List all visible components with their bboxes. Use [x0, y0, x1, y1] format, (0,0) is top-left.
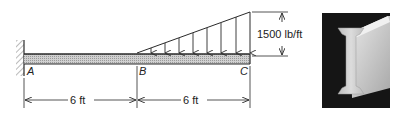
load-intensity-dimension: 1500 lb/ft: [252, 12, 312, 56]
point-label-b: B: [139, 65, 146, 77]
length-dimensions: 6 ft 6 ft: [24, 66, 250, 108]
cantilever-beam-diagram: 1500 lb/ft A B C 6 ft 6 ft: [0, 0, 408, 117]
distributed-load: [137, 12, 250, 53]
beam: [24, 54, 250, 64]
dimension-label-bc: 6 ft: [183, 94, 198, 106]
point-label-c: C: [240, 65, 248, 77]
fixed-support-wall: [16, 40, 24, 76]
load-intensity-label: 1500 lb/ft: [257, 28, 302, 40]
dimension-label-ab: 6 ft: [70, 94, 85, 106]
i-beam-photo: [322, 13, 390, 108]
point-label-a: A: [26, 65, 34, 77]
